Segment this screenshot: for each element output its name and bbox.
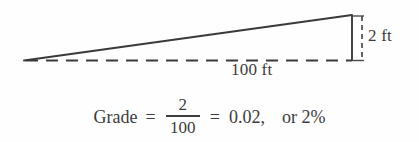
hypotenuse-line [24, 15, 352, 61]
equals-sign-second: = [209, 108, 221, 126]
fraction-denominator: 100 [170, 118, 196, 136]
grade-figure: 2 ft 100 ft Grade = 2 100 = 0.02, or 2% [0, 0, 419, 142]
fraction-numerator: 2 [178, 96, 187, 114]
fraction-bar [166, 115, 200, 116]
rise-dimension-label: 2 ft [368, 26, 392, 46]
decimal-result: 0.02, [228, 108, 265, 126]
equation-label: Grade [94, 108, 138, 126]
fraction-two-over-one-hundred: 2 100 [164, 96, 202, 135]
equals-sign-first: = [145, 108, 157, 126]
percent-result: or 2% [272, 108, 326, 126]
run-dimension-label: 100 ft [231, 60, 272, 80]
grade-equation: Grade = 2 100 = 0.02, or 2% [0, 92, 419, 142]
grade-triangle-diagram [0, 0, 419, 90]
